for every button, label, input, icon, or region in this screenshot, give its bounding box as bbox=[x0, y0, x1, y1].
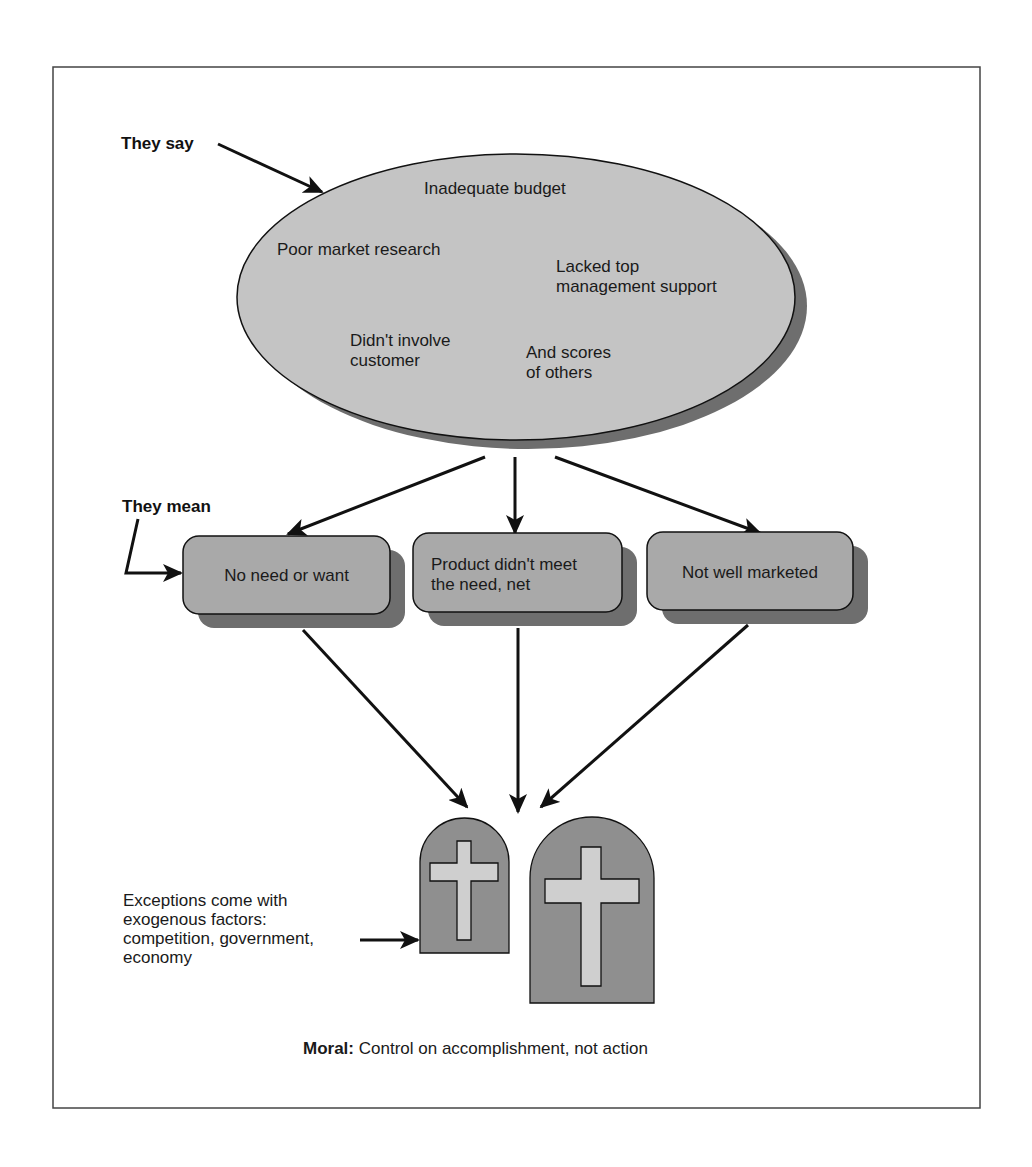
reason-lacked-top-line1: Lacked top bbox=[556, 257, 639, 276]
box-label: No need or want bbox=[224, 566, 349, 585]
reason-didnt-involve-line1: Didn't involve bbox=[350, 331, 451, 350]
exceptions-line1: Exceptions come with bbox=[123, 891, 287, 910]
reason-scores-others-line1: And scores bbox=[526, 343, 611, 362]
reason-lacked-top-line2: management support bbox=[556, 277, 717, 296]
box-label: Not well marketed bbox=[682, 563, 818, 582]
moral-text: Control on accomplishment, not action bbox=[354, 1039, 648, 1058]
meaning-box-product-didnt-meet-need: Product didn't meet the need, net bbox=[413, 533, 637, 626]
exceptions-line2: exogenous factors: bbox=[123, 910, 267, 929]
tombstone-small-icon bbox=[420, 818, 509, 953]
moral-statement: Moral: Control on accomplishment, not ac… bbox=[303, 1039, 648, 1058]
they-mean-label: They mean bbox=[122, 497, 211, 516]
reason-poor-market-research: Poor market research bbox=[277, 240, 440, 259]
tombstone-large-icon bbox=[530, 817, 654, 1003]
reason-scores-others-line2: of others bbox=[526, 363, 592, 382]
box-label-line1: Product didn't meet bbox=[431, 555, 577, 574]
reason-didnt-involve-line2: customer bbox=[350, 351, 420, 370]
box-label-line2: the need, net bbox=[431, 575, 531, 594]
exceptions-line3: competition, government, bbox=[123, 929, 314, 948]
meaning-box-no-need: No need or want bbox=[183, 536, 405, 628]
reason-inadequate-budget: Inadequate budget bbox=[424, 179, 566, 198]
exceptions-line4: economy bbox=[123, 948, 192, 967]
diagram-canvas: They say Inadequate budget Poor market r… bbox=[0, 0, 1032, 1167]
meaning-box-not-well-marketed: Not well marketed bbox=[647, 532, 868, 624]
they-say-label: They say bbox=[121, 134, 194, 153]
moral-label: Moral: bbox=[303, 1039, 354, 1058]
